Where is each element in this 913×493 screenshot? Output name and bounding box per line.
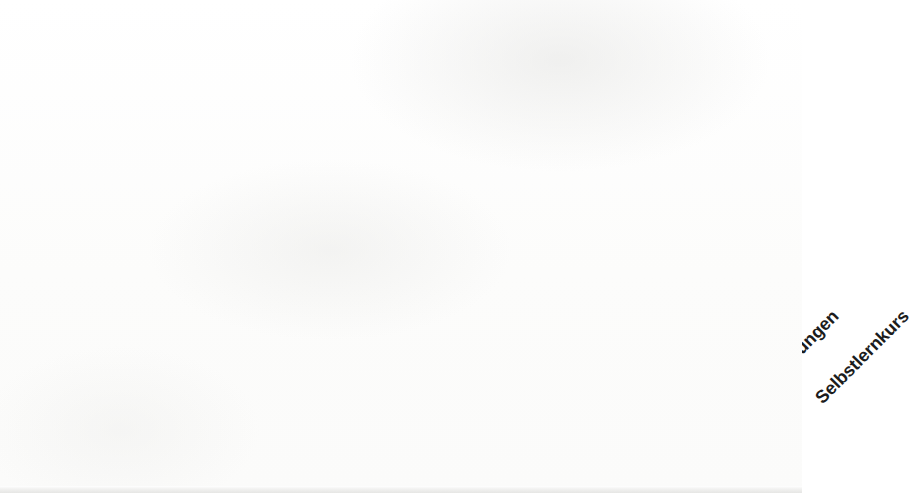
bar [740, 286, 785, 295]
bar [88, 33, 133, 295]
bar [545, 275, 590, 295]
bar-value-label: 80,9% [66, 5, 156, 27]
bar-value-label: 16,0% [338, 215, 428, 237]
bar [458, 259, 503, 295]
bar [268, 219, 313, 295]
bar [645, 279, 690, 295]
bar [360, 243, 405, 295]
bar-value-label: 23,8% [158, 190, 248, 212]
page-bottom-edge [0, 486, 802, 493]
category-axis-line [38, 295, 784, 297]
bar-value-label: 4,8% [623, 251, 713, 273]
category-axis-labels: SchulunterrichtSprachkursMitlernen mit d… [0, 300, 802, 493]
bar-value-label: 23,4% [246, 191, 336, 213]
bar-value-label: 6,1% [523, 247, 613, 269]
bar [180, 218, 225, 295]
category-label: Zeitschriften/Bücher [630, 306, 767, 443]
bar-value-label: 11,1% [436, 231, 526, 253]
bar-value-label: 2,8% [718, 258, 808, 280]
plot-area: 80,9%23,8%23,4%16,0%11,1%6,1%4,8%2,8% [0, 0, 802, 310]
category-label: Schulunterricht [161, 306, 269, 414]
